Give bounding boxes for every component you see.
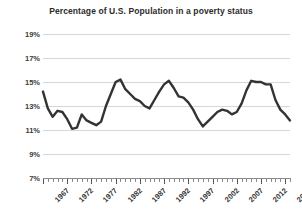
- x-minor-tick: [159, 179, 160, 182]
- x-minor-tick: [208, 179, 209, 182]
- x-minor-tick: [120, 179, 121, 182]
- x-minor-tick: [217, 179, 218, 182]
- x-minor-tick: [150, 179, 151, 182]
- x-minor-tick: [82, 179, 83, 182]
- x-minor-tick: [154, 179, 155, 182]
- x-tick-label: 1977: [101, 186, 119, 204]
- x-minor-tick: [251, 179, 252, 182]
- x-minor-tick: [266, 179, 267, 182]
- x-minor-tick: [87, 179, 88, 182]
- x-minor-tick: [179, 179, 180, 182]
- x-minor-tick: [106, 179, 107, 182]
- x-minor-tick: [130, 179, 131, 182]
- x-axis-line: [43, 178, 291, 179]
- x-minor-tick: [96, 179, 97, 182]
- x-major-tick: [116, 179, 117, 184]
- y-tick-label: 11%: [10, 126, 40, 135]
- y-tick-label: 7%: [10, 174, 40, 183]
- x-minor-tick: [174, 179, 175, 182]
- x-major-tick: [67, 179, 68, 184]
- x-minor-tick: [145, 179, 146, 182]
- x-tick-label: 1972: [77, 186, 95, 204]
- x-tick-label: 2012: [271, 186, 289, 204]
- x-major-tick: [91, 179, 92, 184]
- x-minor-tick: [242, 179, 243, 182]
- x-minor-tick: [222, 179, 223, 182]
- x-minor-tick: [72, 179, 73, 182]
- x-minor-tick: [227, 179, 228, 182]
- x-minor-tick: [125, 179, 126, 182]
- x-tick-label: 1992: [174, 186, 192, 204]
- x-minor-tick: [58, 179, 59, 182]
- x-tick-label: 2002: [222, 186, 240, 204]
- x-minor-tick: [101, 179, 102, 182]
- x-major-tick: [43, 179, 44, 184]
- x-tick-label: 2007: [247, 186, 265, 204]
- x-minor-tick: [183, 179, 184, 182]
- chart-title: Percentage of U.S. Population in a pover…: [0, 6, 302, 16]
- y-tick-label: 19%: [10, 30, 40, 39]
- x-major-tick: [213, 179, 214, 184]
- x-minor-tick: [246, 179, 247, 182]
- x-tick-label: 1997: [198, 186, 216, 204]
- x-minor-tick: [169, 179, 170, 182]
- y-tick-label: 15%: [10, 78, 40, 87]
- poverty-rate-line-chart: Percentage of U.S. Population in a pover…: [0, 0, 302, 221]
- x-minor-tick: [198, 179, 199, 182]
- x-minor-tick: [111, 179, 112, 182]
- x-major-tick: [140, 179, 141, 184]
- x-tick-label: 1982: [126, 186, 144, 204]
- x-tick-label: 1967: [53, 186, 71, 204]
- x-tick-label: 1987: [150, 186, 168, 204]
- x-major-tick: [164, 179, 165, 184]
- y-tick-label: 17%: [10, 54, 40, 63]
- x-minor-tick: [77, 179, 78, 182]
- x-tick-label: 2017: [295, 186, 302, 204]
- x-minor-tick: [275, 179, 276, 182]
- y-tick-label: 13%: [10, 102, 40, 111]
- x-major-tick: [261, 179, 262, 184]
- x-minor-tick: [62, 179, 63, 182]
- x-minor-tick: [280, 179, 281, 182]
- x-minor-tick: [232, 179, 233, 182]
- y-tick-label: 9%: [10, 150, 40, 159]
- x-minor-tick: [135, 179, 136, 182]
- x-minor-tick: [48, 179, 49, 182]
- x-minor-tick: [290, 179, 291, 182]
- x-major-tick: [188, 179, 189, 184]
- x-major-tick: [237, 179, 238, 184]
- x-minor-tick: [53, 179, 54, 182]
- x-major-tick: [285, 179, 286, 184]
- plot-area: [43, 34, 290, 178]
- x-minor-tick: [203, 179, 204, 182]
- x-minor-tick: [271, 179, 272, 182]
- data-line: [43, 34, 290, 178]
- y-axis-labels: 19%17%15%13%11%9%7%: [8, 34, 40, 178]
- x-minor-tick: [193, 179, 194, 182]
- x-minor-tick: [256, 179, 257, 182]
